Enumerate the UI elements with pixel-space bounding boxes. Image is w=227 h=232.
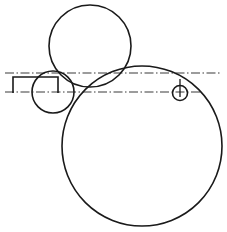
drawing-canvas	[0, 0, 227, 232]
top-circle	[49, 5, 131, 87]
large-circle	[62, 66, 222, 226]
line-drawing-svg	[0, 0, 227, 232]
